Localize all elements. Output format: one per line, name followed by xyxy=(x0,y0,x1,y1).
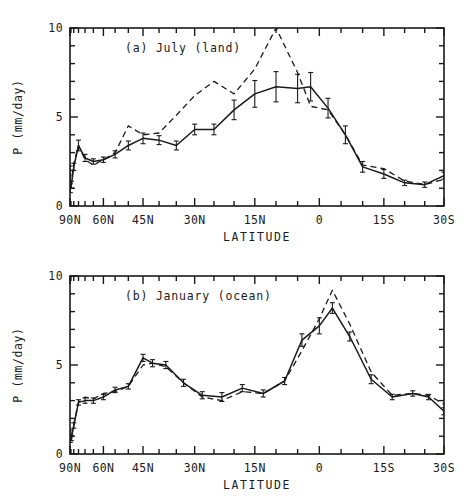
chart-panel-january-ocean: 051090N60N45N30N15N015S30SLATITUDEP (mm/… xyxy=(0,251,474,501)
x-tick-label: 30S xyxy=(433,213,455,227)
x-tick-label: 15S xyxy=(373,461,395,475)
x-tick-label: 60N xyxy=(92,461,114,475)
panel-title: (a) July (land) xyxy=(125,41,241,55)
chart-panel-july-land: 051090N60N45N30N15N015S30SLATITUDEP (mm/… xyxy=(0,0,474,250)
x-tick-label: 15N xyxy=(244,461,266,475)
x-tick-label: 15S xyxy=(373,213,395,227)
y-tick-label: 10 xyxy=(48,21,63,35)
error-bars xyxy=(68,72,447,193)
y-axis-title: P (mm/day) xyxy=(11,79,25,154)
x-axis-title: LATITUDE xyxy=(223,230,291,244)
x-tick-label: 90N xyxy=(59,213,81,227)
y-tick-label: 10 xyxy=(48,269,63,283)
x-tick-label: 15N xyxy=(244,213,266,227)
x-tick-label: 60N xyxy=(92,213,114,227)
x-tick-label: 45N xyxy=(132,461,154,475)
y-tick-label: 5 xyxy=(56,358,63,372)
panel-title: (b) January (ocean) xyxy=(125,289,272,303)
x-axis-title: LATITUDE xyxy=(223,478,291,492)
y-axis-title: P (mm/day) xyxy=(11,327,25,402)
series-line-dashed xyxy=(70,290,444,440)
x-tick-label: 0 xyxy=(316,461,323,475)
figure-root: 051090N60N45N30N15N015S30SLATITUDEP (mm/… xyxy=(0,0,474,501)
y-tick-label: 0 xyxy=(56,199,63,213)
x-tick-label: 30N xyxy=(184,213,206,227)
y-tick-label: 5 xyxy=(56,110,63,124)
x-tick-label: 0 xyxy=(316,213,323,227)
series-line-solid xyxy=(70,87,444,188)
x-tick-label: 45N xyxy=(132,213,154,227)
x-tick-label: 90N xyxy=(59,461,81,475)
series-line-solid xyxy=(70,308,444,440)
x-tick-label: 30S xyxy=(433,461,455,475)
x-tick-label: 30N xyxy=(184,461,206,475)
y-tick-label: 0 xyxy=(56,447,63,461)
error-bars xyxy=(68,303,447,443)
